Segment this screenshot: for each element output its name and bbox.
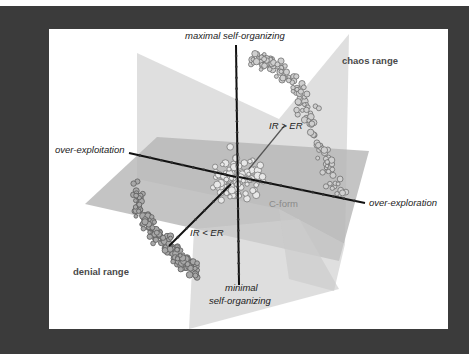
axis-tick (138, 154, 141, 157)
data-point (325, 164, 329, 168)
data-point (133, 205, 137, 209)
axis-tick (236, 186, 239, 189)
data-point (134, 199, 138, 203)
data-point (228, 187, 235, 194)
axis-tick (185, 227, 188, 230)
axis-tick (353, 200, 356, 203)
data-point (262, 57, 267, 62)
data-point (193, 266, 197, 270)
data-point (295, 99, 301, 105)
axis-tick (269, 182, 272, 185)
axis-tick (236, 175, 239, 178)
axis-tick (280, 184, 283, 187)
label-ir-greater-er: IR > ER (269, 121, 303, 131)
axis-tick (332, 195, 335, 198)
data-point (316, 142, 322, 148)
axis-tick (236, 164, 239, 167)
data-point (245, 182, 249, 186)
data-point (220, 163, 224, 167)
data-point (291, 85, 295, 89)
axis-tick (237, 262, 240, 265)
axis-tick (248, 178, 251, 181)
data-point (243, 191, 248, 196)
label-over-exploitation: over-exploitation (55, 145, 125, 155)
axis-tick (259, 180, 262, 183)
data-point (247, 172, 251, 176)
label-minimal: minimal (225, 283, 258, 293)
axis-tick (192, 166, 195, 169)
label-over-exploration: over-exploration (369, 198, 437, 208)
axis-tick (237, 218, 240, 221)
data-point (137, 209, 141, 213)
data-point (323, 184, 328, 189)
data-point (175, 247, 180, 252)
data-point (153, 237, 158, 242)
axis-tick (343, 197, 346, 200)
label-self-organizing: self-organizing (209, 296, 271, 306)
data-point (141, 226, 146, 231)
data-point (340, 190, 346, 196)
label-c-form: C-form (269, 199, 298, 209)
data-point (316, 106, 321, 111)
data-point (259, 173, 266, 180)
data-point (262, 63, 268, 69)
data-point (279, 69, 283, 73)
label-ir-less-er: IR < ER (190, 228, 224, 238)
data-point (228, 195, 232, 199)
data-point (286, 78, 291, 83)
data-point (337, 176, 343, 182)
axis-tick (235, 98, 238, 101)
axis-tick (322, 193, 325, 196)
axis-tick (236, 120, 239, 123)
axis-tick (171, 161, 174, 164)
data-point (252, 51, 258, 57)
axis-tick (236, 131, 239, 134)
data-point (336, 182, 340, 186)
data-point (254, 183, 259, 188)
data-point (171, 259, 176, 264)
axis-tick (221, 192, 224, 195)
data-point (248, 159, 252, 163)
axis-tick (212, 200, 215, 203)
axis-tick (235, 76, 238, 79)
data-point (321, 147, 328, 154)
data-point (253, 58, 259, 64)
axis-tick (237, 240, 240, 243)
label-chaos-range: chaos range (342, 56, 398, 66)
axis-tick (160, 159, 163, 162)
data-point (213, 164, 218, 169)
data-point (280, 75, 286, 81)
axis-tick (301, 189, 304, 192)
data-point (227, 144, 234, 151)
data-point (294, 107, 300, 113)
data-point (316, 156, 320, 160)
data-point (250, 188, 256, 194)
data-point (330, 172, 336, 178)
data-point (330, 186, 334, 190)
data-point (193, 273, 198, 278)
axis-tick (236, 109, 239, 112)
axis-tick (224, 173, 227, 176)
data-point (326, 169, 330, 173)
axis-tick (194, 218, 197, 221)
axis-tick (235, 66, 238, 69)
data-point (309, 121, 315, 127)
axis-tick (311, 191, 314, 194)
axis-tick (237, 196, 240, 199)
data-point (214, 181, 221, 188)
label-maximal-self-organizing: maximal self-organizing (185, 31, 285, 41)
axis-tick (203, 169, 206, 172)
label-denial-range: denial range (73, 267, 129, 277)
data-point (148, 230, 152, 234)
axis-tick (237, 207, 240, 210)
axis-tick (236, 142, 239, 145)
data-point (257, 162, 264, 169)
data-point (162, 248, 168, 254)
data-point (134, 193, 139, 198)
data-point (227, 167, 231, 171)
data-point (169, 236, 173, 240)
data-point (298, 89, 303, 94)
data-point (150, 225, 155, 230)
data-point (178, 267, 183, 272)
data-point (325, 160, 330, 165)
